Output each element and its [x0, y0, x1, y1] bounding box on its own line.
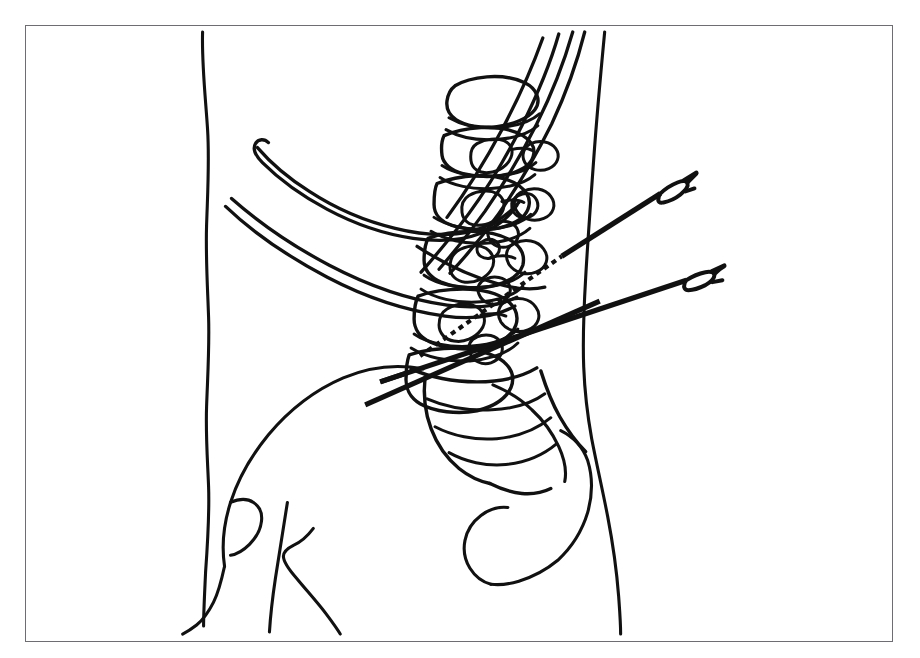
- figure-frame: [25, 25, 893, 642]
- sacral-segment-line-3: [449, 444, 557, 465]
- upper-needle-shaft[interactable]: [562, 193, 661, 256]
- lower-needle-deep-tip: [380, 373, 407, 382]
- figure-caption: [86, 645, 846, 658]
- ilium-notch: [231, 499, 262, 555]
- lower-needle-hub[interactable]: [684, 265, 724, 290]
- anatomy-illustration: [26, 26, 892, 641]
- upper-needle-hub[interactable]: [658, 173, 696, 203]
- coccyx: [490, 484, 551, 494]
- vertebra-T12-body: [447, 77, 538, 128]
- sacral-segment-line-2: [435, 418, 551, 439]
- posterior-arch-L3: [491, 256, 515, 258]
- ischium-contour: [464, 507, 508, 584]
- thigh-contour: [283, 528, 340, 634]
- anterior-abdominal-skin-contour: [202, 32, 208, 626]
- sacrum-anterior-border: [424, 377, 490, 484]
- sacrum-posterior-border: [541, 371, 586, 452]
- posterior-back-skin-contour: [583, 32, 620, 634]
- page-root: [0, 0, 920, 658]
- iliac-crest: [223, 367, 423, 567]
- anterior-thigh-contour: [269, 502, 287, 632]
